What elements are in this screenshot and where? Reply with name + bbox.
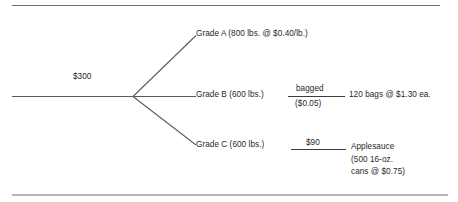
decision-tree-diagram: $300 Grade A (800 lbs. @ $0.40/lb.) Grad… (0, 0, 458, 202)
branch-c-outcome-line-2: (500 16-oz. (351, 154, 405, 167)
branch-line-a (133, 36, 196, 97)
branch-c-process-cost: $90 (306, 138, 320, 149)
branch-b-process-denominator: ($0.05) (295, 99, 321, 110)
branch-b-label: Grade B (600 lbs.) (196, 90, 264, 101)
trunk-value-label: $300 (73, 72, 91, 83)
branch-line-c (133, 97, 196, 146)
branch-a-label: Grade A (800 lbs. @ $0.40/lb.) (196, 29, 308, 40)
branch-c-outcome-block: Applesauce (500 16-oz. cans @ $0.75) (351, 141, 405, 179)
branch-c-outcome-line-3: cans @ $0.75) (351, 166, 405, 179)
branch-b-outcome-label: 120 bags @ $1.30 ea. (349, 90, 431, 101)
branch-c-label: Grade C (600 lbs.) (196, 140, 264, 151)
branch-c-outcome-line-1: Applesauce (351, 141, 405, 154)
branch-b-process-numerator: bagged (296, 84, 324, 95)
